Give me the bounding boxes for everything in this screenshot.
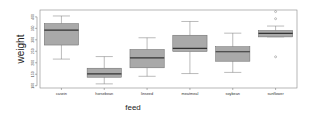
x-axis: caseinhorsebeanlinseedmeatmealsoybeansun… [56,88,285,96]
box-horsebean [87,57,121,84]
box-sunflower [258,11,292,58]
x-tick-label: linseed [141,92,153,96]
y-axis-label: weight [15,34,26,64]
y-tick-label: 300 [31,37,35,43]
outlier-point [275,56,277,58]
box-casein [44,16,78,59]
outlier-point [275,18,277,20]
x-tick-label: sunflower [267,92,284,96]
box-meatmeal [173,21,207,73]
y-tick-label: 350 [31,25,35,31]
box-iqr [216,47,250,62]
y-axis: 100150200250300350400 [31,14,37,89]
box-iqr [130,50,164,68]
x-axis-label: feed [125,103,141,112]
x-tick-label: soybean [226,92,240,96]
box-iqr [44,24,78,45]
box-iqr [87,68,121,77]
boxplot-chart: 100150200250300350400 caseinhorsebeanlin… [0,0,309,117]
box-soybean [216,33,250,72]
y-tick-label: 250 [31,48,35,54]
x-tick-label: horsebean [95,92,113,96]
outlier-point [275,11,277,13]
plot-frame [40,10,297,88]
box-linseed [130,38,164,77]
box-iqr [173,35,207,51]
x-tick-label: casein [56,92,67,96]
y-tick-label: 150 [31,71,35,77]
boxes [44,11,292,84]
y-tick-label: 100 [31,83,35,89]
x-tick-label: meatmeal [182,92,199,96]
y-tick-label: 200 [31,60,35,66]
y-tick-label: 400 [31,14,35,20]
